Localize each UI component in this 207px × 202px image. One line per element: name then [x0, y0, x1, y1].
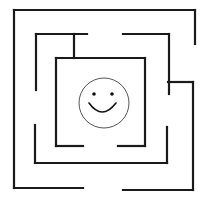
background	[0, 0, 207, 202]
maze-figure	[0, 0, 207, 202]
smiley-left-eye	[92, 92, 96, 96]
smiley-right-eye	[110, 92, 114, 96]
